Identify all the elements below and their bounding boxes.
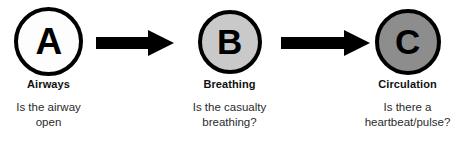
step-circle-b: B [198,10,262,74]
step-question-breathing: Is the casualty breathing? [166,100,293,130]
step-circle-a: A [14,7,83,76]
step-circle-c: C [375,9,441,75]
step-airways: A Airways Is the airway open [0,0,97,141]
circle-wrapper-c: C [352,9,463,75]
step-label-breathing: Breathing [172,78,287,90]
step-question-airways: Is the airway open [0,100,103,130]
step-breathing: B Breathing Is the casualty breathing? [172,0,287,141]
arrow-a-to-b-icon [96,30,174,56]
step-letter-b: B [217,24,242,59]
step-label-airways: Airways [0,78,97,90]
abc-flow-diagram: A Airways Is the airway open B Breathing… [0,0,463,141]
circle-wrapper-a: A [0,7,97,76]
step-question-circulation: Is there a heartbeat/pulse? [346,100,463,130]
circle-wrapper-b: B [172,10,287,74]
step-circulation: C Circulation Is there a heartbeat/pulse… [352,0,463,141]
step-label-circulation: Circulation [352,78,463,90]
step-letter-c: C [395,24,420,59]
step-letter-a: A [35,23,61,60]
